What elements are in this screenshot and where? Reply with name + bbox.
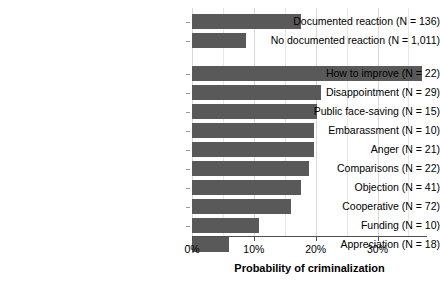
y-axis-label: How to improve (N = 22) xyxy=(258,64,440,83)
y-axis-label: Embarassment (N = 10) xyxy=(258,121,440,140)
y-axis-label: Disappointment (N = 29) xyxy=(258,83,440,102)
y-axis-label: Documented reaction (N = 136) xyxy=(258,12,440,31)
y-axis-tick xyxy=(186,188,190,189)
y-axis-tick xyxy=(186,93,190,94)
y-axis-tick xyxy=(186,150,190,151)
y-axis-label: Anger (N = 21) xyxy=(258,140,440,159)
y-axis-tick xyxy=(186,169,190,170)
chart-figure: Documented reaction (N = 136)No document… xyxy=(0,0,440,284)
y-axis-label: Appreciation (N = 18) xyxy=(258,235,440,254)
x-axis-tick xyxy=(254,237,255,241)
y-axis-tick xyxy=(186,226,190,227)
y-axis-tick xyxy=(186,131,190,132)
bar xyxy=(192,33,246,48)
x-axis-line xyxy=(192,236,427,237)
x-axis-tick xyxy=(192,237,193,241)
y-axis-tick xyxy=(186,41,190,42)
bar xyxy=(192,218,259,233)
y-axis-label: Objection (N = 41) xyxy=(258,178,440,197)
x-axis-title: Probability of criminalization xyxy=(192,262,427,274)
x-axis-tick-label: 20% xyxy=(305,243,326,255)
y-axis-tick xyxy=(186,74,190,75)
x-axis-tick-label: 10% xyxy=(243,243,264,255)
y-axis-tick xyxy=(186,207,190,208)
y-axis-label: Cooperative (N = 72) xyxy=(258,197,440,216)
y-axis-tick xyxy=(186,112,190,113)
y-axis-label: Funding (N = 10) xyxy=(258,216,440,235)
y-axis-tick xyxy=(186,22,190,23)
x-axis-tick xyxy=(378,237,379,241)
x-axis-tick-label: 30% xyxy=(367,243,388,255)
x-axis-tick xyxy=(316,237,317,241)
y-axis-label: Public face-saving (N = 15) xyxy=(258,102,440,121)
y-axis-label: Comparisons (N = 22) xyxy=(258,159,440,178)
x-axis-tick-label: 0% xyxy=(184,243,199,255)
y-axis-label: No documented reaction (N = 1,011) xyxy=(258,31,440,50)
